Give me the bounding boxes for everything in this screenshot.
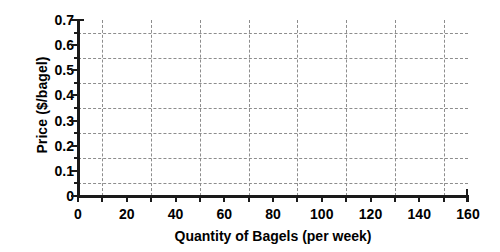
gridline-vertical <box>151 20 152 196</box>
x-axis-tick-minor <box>199 195 201 202</box>
gridline-horizontal <box>78 83 468 84</box>
x-axis-tick-major <box>272 195 274 202</box>
y-axis-tick-major <box>71 44 79 46</box>
y-axis-tick-label: 0.7 <box>40 13 74 27</box>
x-axis-tick-major <box>126 195 128 202</box>
gridlines-layer <box>78 20 468 196</box>
gridline-vertical <box>346 20 347 196</box>
y-axis-tick-major <box>71 94 79 96</box>
y-axis-tick-minor <box>74 107 79 109</box>
x-axis-tick-major <box>418 195 420 202</box>
y-axis-tick-major <box>71 120 79 122</box>
x-axis-tick-major <box>77 195 79 202</box>
x-axis-tick-major <box>321 195 323 202</box>
gridline-horizontal <box>78 58 468 59</box>
y-axis-tick-label: 0.3 <box>40 114 74 128</box>
y-axis-tick-minor <box>74 32 79 34</box>
x-axis-tick-minor <box>345 195 347 202</box>
y-axis-tick-label: 0 <box>40 189 74 203</box>
gridline-horizontal <box>78 158 468 159</box>
x-axis-tick-label: 160 <box>438 206 498 222</box>
gridline-horizontal <box>78 183 468 184</box>
chart-figure: Price ($/bagel) 00.10.20.30.40.50.60.7 0… <box>0 0 500 252</box>
gridline-vertical <box>200 20 201 196</box>
x-axis-tick-minor <box>248 195 250 202</box>
y-axis-tick-major <box>71 145 79 147</box>
y-axis-tick-minor <box>74 82 79 84</box>
x-axis-tick-minor <box>394 195 396 202</box>
gridline-vertical <box>297 20 298 196</box>
x-axis-tick-labels: 020406080100120140160 <box>0 206 500 226</box>
x-axis-tick-minor <box>101 195 103 202</box>
y-axis-tick-minor <box>74 157 79 159</box>
gridline-vertical <box>102 20 103 196</box>
gridline-vertical <box>249 20 250 196</box>
x-axis-tick-major <box>223 195 225 202</box>
x-axis-tick-major <box>175 195 177 202</box>
gridline-horizontal <box>78 108 468 109</box>
plot-area <box>78 20 468 196</box>
gridline-horizontal <box>78 133 468 134</box>
y-axis-tick-minor <box>74 182 79 184</box>
y-axis-tick-minor <box>74 57 79 59</box>
x-axis-tick-major <box>370 195 372 202</box>
y-axis-tick-major <box>71 19 79 21</box>
gridline-vertical <box>444 20 445 196</box>
x-axis-tick-minor <box>150 195 152 202</box>
y-axis-tick-label: 0.4 <box>40 88 74 102</box>
y-axis-tick-major <box>71 170 79 172</box>
x-axis-tick-major <box>467 195 469 202</box>
y-axis-tick-major <box>71 69 79 71</box>
gridline-vertical <box>395 20 396 196</box>
y-axis-tick-label: 0.5 <box>40 63 74 77</box>
x-axis-title: Quantity of Bagels (per week) <box>78 228 468 244</box>
y-axis-tick-label: 0.6 <box>40 38 74 52</box>
x-axis-tick-minor <box>443 195 445 202</box>
gridline-horizontal <box>78 33 468 34</box>
y-axis-tick-label: 0.1 <box>40 164 74 178</box>
x-axis-tick-minor <box>296 195 298 202</box>
y-axis-tick-minor <box>74 132 79 134</box>
y-axis-tick-label: 0.2 <box>40 139 74 153</box>
